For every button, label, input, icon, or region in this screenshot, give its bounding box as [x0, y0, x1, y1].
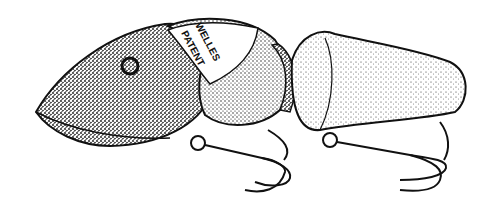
- rear-treble-hook-icon: [323, 122, 448, 191]
- front-treble-hook-icon: [191, 130, 290, 191]
- lure-illustration: WELLES PATENT: [0, 0, 494, 211]
- lure-rear-body: [292, 32, 466, 130]
